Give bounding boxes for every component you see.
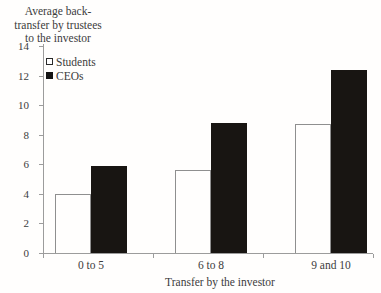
y-tick-mark [39, 105, 43, 106]
bar-students-9-and-10 [295, 124, 331, 253]
x-tick-mark [373, 254, 374, 258]
bar-ceos-0-to-5 [91, 166, 127, 253]
bar-students-6-to-8 [175, 170, 211, 253]
x-category-label: 0 to 5 [46, 259, 136, 271]
y-tick-label: 12 [3, 70, 29, 82]
y-axis-line [43, 44, 44, 253]
x-axis-line [43, 253, 373, 254]
x-tick-mark [263, 254, 264, 258]
bar-ceos-6-to-8 [211, 123, 247, 253]
y-tick-mark [39, 76, 43, 77]
y-tick-mark [39, 46, 43, 47]
y-tick-label: 6 [3, 158, 29, 170]
y-tick-mark [39, 223, 43, 224]
y-tick-mark [39, 135, 43, 136]
legend-item-students: Students [46, 55, 96, 68]
y-tick-label: 4 [3, 188, 29, 200]
y-tick-label: 0 [3, 247, 29, 259]
legend-label-ceos: CEOs [56, 70, 83, 82]
legend-item-ceos: CEOs [46, 69, 96, 82]
ceos-swatch-icon [46, 72, 53, 79]
x-tick-mark [153, 254, 154, 258]
y-tick-label: 2 [3, 217, 29, 229]
bar-chart: Average back- transfer by trustees to th… [0, 0, 381, 293]
y-tick-label: 14 [3, 40, 29, 52]
x-axis-title: Transfer by the investor [120, 276, 320, 288]
legend-label-students: Students [56, 56, 96, 68]
bar-students-0-to-5 [55, 194, 91, 253]
y-axis-title-line1: Average back- [2, 5, 114, 19]
y-tick-mark [39, 194, 43, 195]
x-tick-mark [43, 254, 44, 258]
bar-ceos-9-and-10 [331, 70, 367, 253]
y-axis-title-line2: transfer by trustees [2, 19, 114, 33]
y-tick-label: 8 [3, 129, 29, 141]
x-category-label: 9 and 10 [286, 259, 376, 271]
y-tick-mark [39, 164, 43, 165]
x-category-label: 6 to 8 [166, 259, 256, 271]
legend: Students CEOs [46, 55, 96, 83]
students-swatch-icon [46, 58, 53, 65]
y-tick-label: 10 [3, 99, 29, 111]
